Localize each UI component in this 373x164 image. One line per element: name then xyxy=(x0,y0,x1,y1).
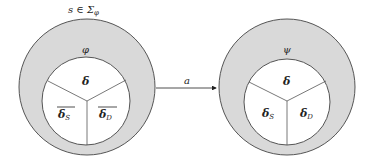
right-outer-label-psi: ψ xyxy=(283,44,291,55)
diagram-canvas: s ∈ Σφ φ δ δS δD a ψ δ δS δD xyxy=(0,0,373,164)
transition-arrow: a xyxy=(156,75,216,88)
left-outer-label-phi: φ xyxy=(82,44,89,55)
right-state-node: ψ δ δS δD xyxy=(219,19,355,155)
right-segment-top-delta: δ xyxy=(282,75,290,88)
left-segment-top-delta: δ xyxy=(81,75,89,88)
left-state-node: s ∈ Σφ φ δ δS δD xyxy=(19,4,155,155)
transition-label-a: a xyxy=(184,75,190,86)
left-inner-circle xyxy=(42,57,130,145)
state-membership-label: s ∈ Σφ xyxy=(68,4,99,17)
